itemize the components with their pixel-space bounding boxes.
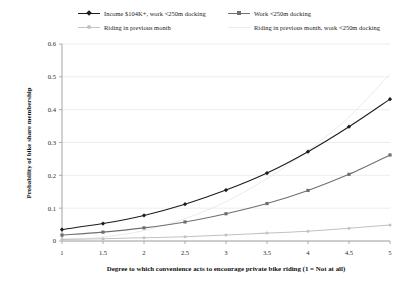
data-point xyxy=(265,171,269,175)
x-tick-label: 4 xyxy=(306,249,310,256)
x-tick-label: 4.5 xyxy=(345,249,354,256)
data-point xyxy=(184,235,187,238)
data-point xyxy=(306,189,309,192)
y-axis-title: Probability of bike share membership xyxy=(25,87,32,198)
data-point xyxy=(101,231,104,234)
y-axis-tick-labels: 00.10.20.30.40.50.6 xyxy=(48,40,57,244)
series-line xyxy=(62,155,390,235)
bike-share-probability-chart: Income $104K+, work <250m docking Work <… xyxy=(0,0,405,286)
y-tick-label: 0.4 xyxy=(48,106,57,113)
y-tick-label: 0.6 xyxy=(48,40,57,47)
series-lines xyxy=(60,74,392,241)
series-1 xyxy=(60,97,392,232)
y-tick-label: 0.2 xyxy=(48,172,56,179)
x-tick-label: 1.5 xyxy=(99,249,108,256)
grid-lines xyxy=(62,44,390,241)
data-point xyxy=(60,227,64,231)
data-point xyxy=(265,202,268,205)
data-point xyxy=(224,212,227,215)
data-point xyxy=(102,237,105,240)
x-tick-label: 3.5 xyxy=(263,249,272,256)
data-point xyxy=(225,234,228,237)
x-tick-label: 3 xyxy=(224,249,228,256)
x-tick-label: 1 xyxy=(60,249,63,256)
data-point xyxy=(143,236,146,239)
data-point xyxy=(183,220,186,223)
chart-svg: 00.10.20.30.40.50.6 11.522.533.544.55 Pr… xyxy=(0,0,405,286)
data-point xyxy=(348,227,351,230)
y-tick-label: 0.1 xyxy=(48,205,56,212)
data-point xyxy=(388,153,391,156)
data-point xyxy=(60,233,63,236)
y-tick-label: 0.3 xyxy=(48,139,57,146)
series-2 xyxy=(60,153,391,236)
y-tick-label: 0.5 xyxy=(48,73,57,80)
x-tick-label: 2 xyxy=(142,249,145,256)
y-tick-label: 0 xyxy=(53,237,57,244)
series-line xyxy=(62,225,390,239)
x-axis-tick-labels: 11.522.533.544.55 xyxy=(60,249,392,256)
x-tick-label: 5 xyxy=(388,249,392,256)
data-point xyxy=(183,202,187,206)
series-3 xyxy=(61,223,392,240)
series-line xyxy=(62,99,390,229)
data-point xyxy=(61,238,64,241)
data-point xyxy=(142,213,146,217)
x-tick-label: 2.5 xyxy=(181,249,190,256)
x-axis-title: Degree to which convenience acts to enco… xyxy=(107,265,345,273)
data-point xyxy=(389,223,392,226)
data-point xyxy=(266,232,269,235)
data-point xyxy=(224,188,228,192)
data-point xyxy=(347,173,350,176)
data-point xyxy=(101,221,105,225)
plot-area: 00.10.20.30.40.50.6 11.522.533.544.55 Pr… xyxy=(0,0,405,286)
data-point xyxy=(307,230,310,233)
data-point xyxy=(142,226,145,229)
